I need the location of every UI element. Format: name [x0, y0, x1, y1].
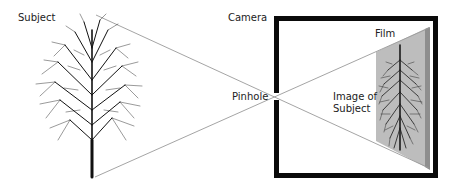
film-label: Film: [375, 28, 395, 40]
image-of-subject-label-line2: Subject: [333, 103, 370, 115]
image-of-subject-label-line1: Image of: [333, 91, 377, 103]
pinhole-label: Pinhole: [232, 91, 268, 103]
pinhole-camera-diagram: Subject Camera Film Pinhole Image of Sub…: [0, 0, 458, 186]
subject-tree: [36, 14, 142, 177]
camera-label: Camera: [228, 12, 267, 24]
subject-label: Subject: [18, 12, 55, 24]
